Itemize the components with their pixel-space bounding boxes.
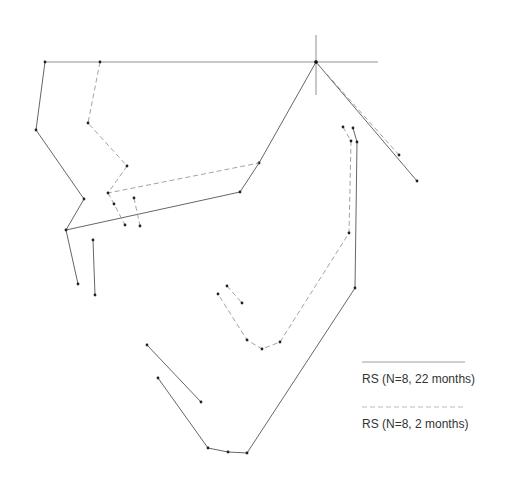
landmark-point — [139, 225, 142, 228]
landmark-point — [226, 285, 229, 288]
landmark-point — [200, 401, 203, 404]
landmark-point — [107, 192, 110, 195]
tracing-polyline — [134, 198, 140, 226]
landmark-point — [113, 203, 116, 206]
landmark-point — [348, 232, 351, 235]
landmark-point — [92, 239, 95, 242]
landmark-point — [207, 447, 210, 450]
landmark-point — [146, 344, 149, 347]
landmark-point — [416, 180, 419, 183]
cephalometric-diagram — [0, 0, 523, 478]
landmark-point — [246, 452, 249, 455]
tracing-polyline — [147, 345, 201, 402]
landmark-point — [65, 229, 68, 232]
landmark-point — [44, 61, 47, 64]
tracing-polyline — [218, 127, 351, 349]
landmark-point — [77, 283, 80, 286]
tracing-polyline — [93, 240, 95, 295]
landmark-point — [133, 197, 136, 200]
landmark-point — [246, 339, 249, 342]
landmark-point — [35, 129, 38, 132]
landmark-point — [99, 61, 102, 64]
landmark-point — [227, 451, 230, 454]
tracing-polyline — [36, 62, 84, 284]
landmark-point — [157, 377, 160, 380]
landmark-point — [342, 126, 345, 129]
series-22-months — [35, 61, 419, 455]
landmark-point — [87, 122, 90, 125]
landmark-point — [126, 165, 129, 168]
tracing-polyline — [88, 62, 259, 193]
landmark-point — [94, 294, 97, 297]
origin-point — [314, 60, 318, 64]
tracing-polyline — [227, 286, 242, 303]
tracing-polyline — [66, 62, 417, 230]
landmark-point — [398, 154, 401, 157]
series-layer — [35, 60, 419, 454]
landmark-point — [279, 341, 282, 344]
series-2-months — [87, 61, 401, 351]
landmark-point — [217, 293, 220, 296]
landmark-point — [239, 191, 242, 194]
landmark-point — [83, 198, 86, 201]
landmark-point — [356, 141, 359, 144]
landmark-point — [261, 348, 264, 351]
landmark-point — [241, 302, 244, 305]
landmark-point — [354, 287, 357, 290]
landmark-point — [124, 224, 127, 227]
legend-label-2-months: RS (N=8, 2 months) — [362, 417, 468, 431]
landmark-point — [350, 140, 353, 143]
legend-label-22-months: RS (N=8, 22 months) — [362, 372, 475, 386]
landmark-point — [352, 127, 355, 130]
